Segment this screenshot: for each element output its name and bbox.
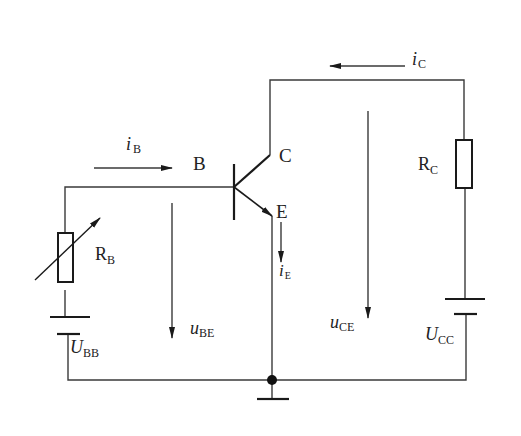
ground-icon xyxy=(257,375,289,399)
label-collector: C xyxy=(279,145,292,166)
base-circuit-wires xyxy=(65,187,466,380)
ubb-battery-icon xyxy=(50,317,90,334)
collector-lead xyxy=(234,155,270,187)
label-ib: iB xyxy=(126,134,141,156)
npn-transistor xyxy=(234,155,272,220)
label-uce: uCE xyxy=(330,312,354,334)
rc-resistor xyxy=(456,140,472,188)
label-ubb: UBB xyxy=(70,337,99,360)
rb-variable-resistor xyxy=(35,218,100,282)
circuit-diagram: B C E iB iC iE RB RC UBB UCC uBE uCE xyxy=(0,0,521,436)
label-base: B xyxy=(193,153,206,174)
ucc-battery-icon xyxy=(445,299,485,314)
label-emitter: E xyxy=(276,201,288,222)
label-ucc: UCC xyxy=(425,324,454,347)
label-rc: RC xyxy=(418,154,438,177)
label-ic: iC xyxy=(412,49,426,71)
emitter-lead xyxy=(234,187,272,216)
label-ie: iE xyxy=(279,261,291,281)
label-ube: uBE xyxy=(190,318,214,340)
label-rb: RB xyxy=(95,244,115,267)
